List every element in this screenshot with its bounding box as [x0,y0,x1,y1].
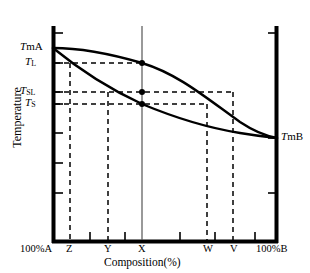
liquidus-curve [53,48,277,138]
composition-label-V: V [230,244,238,255]
phase-diagram-canvas [0,0,310,273]
y-axis-ticks [55,33,63,193]
composition-label-Z: Z [66,244,72,255]
dashed-vertical-composition-lines [70,63,233,240]
composition-label-Y: Y [104,244,112,255]
phase-diagram-figure: Temperature TmA TL TSL TS TmB 100%A Z Y … [0,0,310,273]
x-axis-label: Composition(%) [104,257,181,269]
composition-label-X: X [138,244,146,255]
right-axis-ticks [268,33,275,193]
liquidus-point-at-X [139,60,145,66]
composition-label-W: W [203,244,213,255]
alloy-point-at-X [139,89,145,95]
composition-label-A: 100%A [20,244,52,255]
temperature-label-TL: TL [25,56,36,68]
temperature-label-TmB: TmB [281,131,303,142]
temperature-label-TS: TS [25,97,36,109]
x-axis-ticks [90,232,255,240]
solidus-point-at-X [139,101,145,107]
temperature-label-TmA: TmA [20,41,43,52]
composition-label-B: 100%B [256,244,288,255]
